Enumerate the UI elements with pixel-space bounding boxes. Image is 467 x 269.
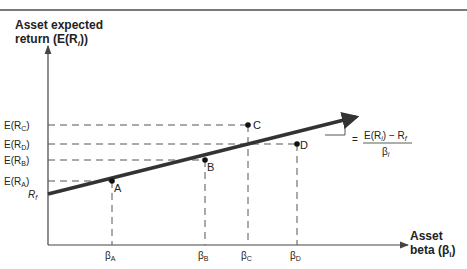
svg-text:E(Ri) − Rf: E(Ri) − Rf: [364, 130, 408, 142]
vertical-guides: [112, 125, 297, 245]
svg-text:=: =: [352, 134, 358, 145]
x-tick-beta-a: βA: [105, 250, 116, 262]
x-tick-beta-b: βB: [198, 250, 209, 262]
y-tick-rf: Rf: [28, 189, 38, 201]
horizontal-guides: [48, 125, 297, 181]
point-d: [294, 141, 300, 147]
x-tick-beta-c: βC: [241, 250, 252, 262]
point-c: [245, 122, 251, 128]
point-label-a: A: [114, 182, 122, 194]
security-market-line: [48, 117, 356, 194]
point-label-b: B: [207, 161, 214, 173]
slope-formula: = E(Ri) − Rf βi: [352, 130, 412, 158]
y-tick-erb: E(RB): [4, 155, 29, 167]
y-tick-erd: E(RD): [4, 139, 30, 151]
x-tick-beta-d: βD: [290, 250, 301, 262]
security-market-line-diagram: A B C D E(RC) E(RD) E(RB) E(RA) Rf βA βB…: [0, 0, 467, 269]
y-tick-erc: E(RC): [4, 120, 30, 132]
y-tick-era: E(RA): [4, 176, 29, 188]
svg-text:βi: βi: [382, 146, 390, 158]
point-label-c: C: [253, 119, 261, 131]
point-label-d: D: [300, 139, 308, 151]
